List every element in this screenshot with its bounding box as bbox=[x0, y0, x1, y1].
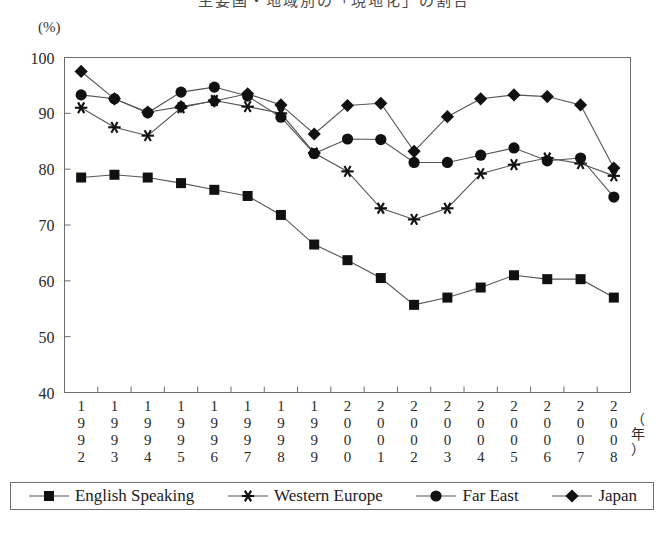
x-tick-label: 1998 bbox=[270, 398, 292, 466]
circle-marker bbox=[575, 152, 586, 163]
x-axis-unit-label: （年） bbox=[628, 412, 648, 457]
square-marker bbox=[276, 210, 286, 220]
line-chart: 100908070605040 bbox=[0, 0, 668, 482]
square-marker bbox=[176, 178, 186, 188]
x-tick-label: 1994 bbox=[137, 398, 159, 466]
square-marker bbox=[309, 240, 319, 250]
asterisk-marker bbox=[242, 491, 254, 502]
x-tick-label: 1996 bbox=[203, 398, 225, 466]
y-tick-label: 60 bbox=[39, 273, 55, 290]
y-tick-label: 50 bbox=[39, 329, 55, 346]
legend-label: Western Europe bbox=[271, 486, 383, 506]
square-marker bbox=[143, 173, 153, 183]
x-tick-label: 2003 bbox=[436, 398, 458, 466]
legend-item-japan[interactable]: Japan bbox=[550, 486, 637, 506]
square-marker bbox=[576, 274, 586, 284]
square-marker bbox=[109, 170, 119, 180]
square-marker bbox=[476, 283, 486, 293]
legend-label: English Speaking bbox=[72, 486, 194, 506]
circle-marker bbox=[76, 89, 87, 100]
y-tick-label: 70 bbox=[39, 217, 55, 234]
square-marker bbox=[209, 185, 219, 195]
legend-item-english-speaking[interactable]: English Speaking bbox=[27, 486, 194, 506]
x-tick-label: 1993 bbox=[103, 398, 125, 466]
circle-marker bbox=[608, 191, 619, 202]
x-tick-label: 2007 bbox=[570, 398, 592, 466]
y-tick-label: 40 bbox=[39, 385, 55, 402]
circle-marker bbox=[209, 81, 220, 92]
x-tick-label: 1992 bbox=[70, 398, 92, 466]
square-marker bbox=[27, 487, 71, 505]
x-tick-label: 2004 bbox=[470, 398, 492, 466]
square-marker bbox=[343, 255, 353, 265]
circle-marker bbox=[342, 133, 353, 144]
legend-item-far-east[interactable]: Far East bbox=[414, 486, 518, 506]
chart-legend: English SpeakingWestern EuropeFar EastJa… bbox=[10, 482, 654, 510]
legend-label: Far East bbox=[459, 486, 518, 506]
square-marker bbox=[542, 274, 552, 284]
diamond-marker bbox=[566, 489, 579, 502]
chart-page: 主要国・地域別の「現地化」の割合 (%) 100908070605040 199… bbox=[0, 0, 668, 536]
square-marker bbox=[76, 173, 86, 183]
square-marker bbox=[442, 293, 452, 303]
circle-marker bbox=[431, 490, 442, 501]
asterisk-marker bbox=[226, 487, 270, 505]
circle-marker bbox=[375, 134, 386, 145]
circle-marker bbox=[442, 157, 453, 168]
circle-marker bbox=[175, 87, 186, 98]
circle-marker bbox=[475, 150, 486, 161]
diamond-marker bbox=[550, 487, 594, 505]
circle-marker bbox=[275, 112, 286, 123]
circle-marker bbox=[414, 487, 458, 505]
x-tick-label: 1995 bbox=[170, 398, 192, 466]
y-tick-label: 90 bbox=[39, 105, 55, 122]
square-marker bbox=[376, 273, 386, 283]
x-tick-label: 1997 bbox=[237, 398, 259, 466]
circle-marker bbox=[542, 155, 553, 166]
legend-item-western-europe[interactable]: Western Europe bbox=[226, 486, 383, 506]
x-tick-label: 2005 bbox=[503, 398, 525, 466]
square-marker bbox=[609, 293, 619, 303]
x-tick-label: 1999 bbox=[303, 398, 325, 466]
circle-marker bbox=[508, 142, 519, 153]
x-tick-label: 2000 bbox=[337, 398, 359, 466]
square-marker bbox=[409, 300, 419, 310]
x-tick-label: 2006 bbox=[536, 398, 558, 466]
circle-marker bbox=[408, 157, 419, 168]
legend-label: Japan bbox=[595, 486, 637, 506]
square-marker bbox=[509, 270, 519, 280]
y-tick-label: 80 bbox=[39, 161, 55, 178]
x-tick-label: 2008 bbox=[603, 398, 625, 466]
x-tick-label: 2001 bbox=[370, 398, 392, 466]
circle-marker bbox=[309, 148, 320, 159]
y-tick-label: 100 bbox=[31, 50, 55, 67]
x-tick-label: 2002 bbox=[403, 398, 425, 466]
square-marker bbox=[44, 491, 54, 501]
square-marker bbox=[243, 191, 253, 201]
